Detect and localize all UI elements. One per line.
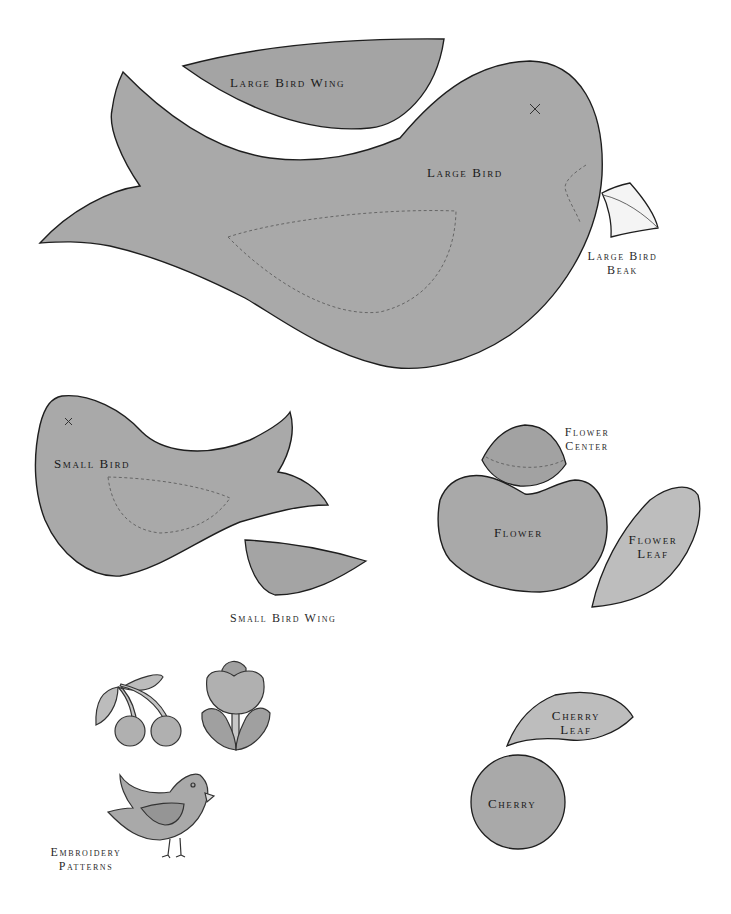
large-bird-beak-piece: [602, 183, 658, 237]
flower-center-label-line1: Flower: [552, 425, 622, 439]
flower-center-label: Flower Center: [552, 425, 622, 453]
flower-leaf-label-line2: Leaf: [618, 547, 688, 561]
flower-leaf-label: Flower Leaf: [618, 533, 688, 561]
cherry-leaf-label: Cherry Leaf: [536, 709, 616, 737]
large-bird-wing-label: Large Bird Wing: [230, 76, 345, 90]
small-bird-wing-piece: [245, 540, 366, 595]
flower-leaf-label-line1: Flower: [618, 533, 688, 547]
large-bird-label: Large Bird: [427, 166, 503, 180]
small-bird-wing-label: Small Bird Wing: [230, 611, 336, 625]
flower-label: Flower: [494, 526, 543, 540]
large-bird-beak-label: Large Bird Beak: [575, 249, 670, 277]
embroidery-cherries-motif: [96, 675, 181, 746]
small-bird-label: Small Bird: [54, 457, 130, 471]
cherry-leaf-label-line1: Cherry: [536, 709, 616, 723]
embroidery-patterns-label-line1: Embroidery: [36, 845, 136, 859]
large-bird-beak-label-line2: Beak: [575, 263, 670, 277]
cherry-label: Cherry: [488, 797, 536, 811]
embroidery-patterns-label: Embroidery Patterns: [36, 845, 136, 873]
embroidery-patterns-label-line2: Patterns: [36, 859, 136, 873]
cherry-leaf-label-line2: Leaf: [536, 723, 616, 737]
embroidery-tulip-motif: [202, 661, 270, 750]
large-bird-beak-label-line1: Large Bird: [575, 249, 670, 263]
flower-center-label-line2: Center: [552, 439, 622, 453]
